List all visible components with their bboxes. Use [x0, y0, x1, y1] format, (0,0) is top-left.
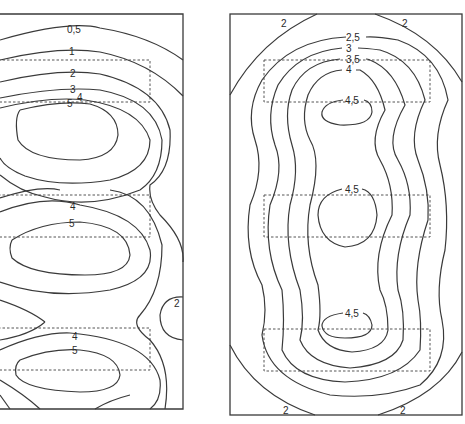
isoline-2-bottom [230, 345, 462, 415]
label-right-4-5-bot: 4,5 [345, 308, 359, 319]
label-left-1: 1 [69, 46, 75, 57]
label-right-2-5: 2,5 [346, 32, 360, 43]
label-right-4-5-top: 4,5 [345, 95, 359, 106]
label-left-4-mid: 4 [70, 201, 76, 212]
isoline-5-upper [16, 103, 118, 160]
label-left-4-low: 4 [72, 331, 78, 342]
label-left-2: 2 [70, 68, 76, 79]
label-left-5-low: 5 [72, 345, 78, 356]
isoline-4-bottom-right [95, 395, 130, 409]
label-right-2-tl: 2 [281, 18, 287, 29]
isoline-5-lower [16, 350, 121, 392]
isoline-4-lower [0, 333, 160, 409]
label-right-4: 4 [346, 64, 352, 75]
label-left-5: 5 [67, 98, 73, 109]
label-left-5-mid: 5 [69, 218, 75, 229]
left-contour-panel [0, 14, 183, 409]
contour-labels: 0,5 1 2 3 4 5 4 5 4 5 2 2 2 2,5 3 3,5 4 … [67, 18, 408, 416]
contour-figure: 0,5 1 2 3 4 5 4 5 4 5 2 2 2 2,5 3 3,5 4 … [0, 0, 465, 424]
label-left-3: 3 [70, 84, 76, 95]
label-left-0-5: 0,5 [67, 24, 81, 35]
isoline-4-bottom-left [0, 395, 10, 409]
left-zone-top [0, 60, 150, 102]
label-right-4-5-mid: 4,5 [345, 184, 359, 195]
isoline-3 [0, 89, 162, 202]
isoline-3-bottom [0, 380, 40, 409]
label-right-2-br: 2 [400, 405, 406, 416]
isoline-3-middle [0, 189, 167, 409]
label-right-2-bl: 2 [283, 405, 289, 416]
isoline-4-upper [0, 99, 150, 183]
isoline-5-middle [10, 222, 130, 275]
isoline-2-5 [248, 37, 448, 396]
isoline-4-5-middle [318, 189, 377, 247]
label-right-3: 3 [346, 43, 352, 54]
label-right-2-tr: 2 [402, 18, 408, 29]
label-left-4: 4 [77, 92, 83, 103]
label-left-2-edge: 2 [174, 298, 180, 309]
isoline-3-lower-left [0, 300, 45, 340]
